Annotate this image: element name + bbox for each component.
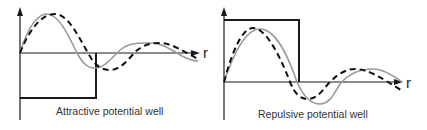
solid-wave-right <box>224 29 402 104</box>
r-axis-label-left: r <box>203 44 208 61</box>
r-axis-label-right: r <box>406 74 411 91</box>
caption-repulsive: Repulsive potential well <box>258 108 368 120</box>
y-axis-arrow-icon <box>221 7 227 16</box>
repulsive-panel: r <box>221 7 411 120</box>
solid-wave-left <box>20 14 198 68</box>
dashed-wave-right <box>224 28 404 99</box>
y-axis-arrow-icon <box>17 7 23 16</box>
attractive-panel: r <box>17 7 208 120</box>
attractive-well <box>20 53 96 98</box>
caption-attractive: Attractive potential well <box>56 105 163 117</box>
dashed-wave-left <box>20 14 200 70</box>
